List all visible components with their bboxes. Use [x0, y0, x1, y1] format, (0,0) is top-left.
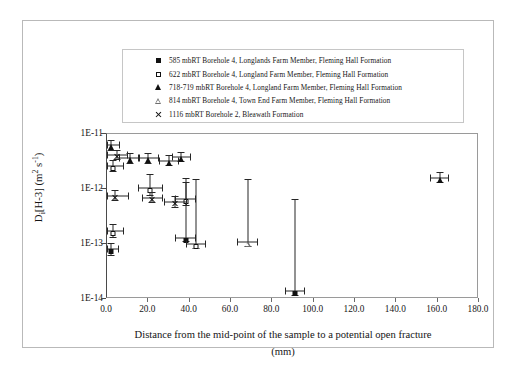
legend-marker-filled-triangle-icon: [147, 81, 169, 94]
error-bar-cap: [257, 238, 258, 245]
x-axis-tick-mark: [437, 298, 438, 302]
error-bar-cap: [128, 192, 129, 199]
error-bar-cap: [107, 163, 108, 170]
error-bar-cap: [107, 152, 108, 159]
open-triangle-marker-icon: [245, 241, 251, 247]
y-axis-tick-label: 1E-11: [65, 128, 103, 138]
error-bar-cap: [107, 192, 108, 199]
data-marker-open-square: [193, 235, 198, 253]
y-axis-tick-mark: [101, 188, 106, 189]
y-axis-tick-mark: [101, 133, 106, 134]
x-axis-tick-label: 160.0: [417, 304, 457, 314]
y-axis-title-main: D: [32, 214, 44, 222]
error-bar-cap: [118, 246, 119, 253]
data-marker-filled-triangle: [166, 152, 172, 170]
legend-item-label: 622 mbRT Borehole 4, Longland Farm Membe…: [169, 70, 388, 79]
cross-marker-icon: [172, 200, 179, 207]
error-bar-cap: [175, 234, 176, 241]
open-square-marker-icon: [111, 231, 116, 236]
legend-item-label: 814 mbRT Borehole 4, Town End Farm Membe…: [169, 96, 390, 105]
y-axis-tick-mark: [101, 298, 106, 299]
chart-legend: 585 mbRT Borehole 4, Longlands Farm Memb…: [122, 49, 464, 123]
error-bar-cap: [205, 241, 206, 248]
error-bar-cap: [142, 194, 143, 201]
x-axis-tick-mark: [271, 298, 272, 302]
x-axis-tick-label: 140.0: [375, 304, 415, 314]
error-bar-cap: [138, 155, 139, 162]
y-axis-title-species: [H-3] (m: [32, 173, 44, 212]
y-axis-tick-labels: 1E-111E-121E-131E-14: [61, 133, 103, 298]
x-axis-tick-label: 60.0: [210, 304, 250, 314]
error-bar-cap: [448, 174, 449, 181]
error-bar-cap: [162, 184, 163, 191]
error-bar-cap: [304, 287, 305, 294]
error-bar-cap: [138, 184, 139, 191]
x-axis-tick-mark: [478, 298, 479, 302]
error-bar-cap: [292, 199, 299, 200]
error-bar-cap: [186, 241, 187, 248]
legend-item-label: 1116 mbRT Borehole 2, Bleawath Formation: [169, 110, 303, 119]
data-marker-cross: [112, 187, 119, 205]
x-axis-tick-label: 100.0: [293, 304, 333, 314]
cross-marker-icon: [149, 196, 156, 203]
error-bar-cap: [182, 182, 189, 183]
data-marker-filled-square: [109, 240, 114, 258]
error-bar-cap: [192, 179, 199, 180]
filled-triangle-marker-icon: [166, 160, 172, 166]
error-bar-cap: [186, 199, 187, 206]
x-axis-tick-label: 120.0: [334, 304, 374, 314]
legend-filled-square-icon: [156, 58, 161, 63]
y-axis-title-subscript: i: [38, 212, 47, 214]
legend-item-label: 585 mbRT Borehole 4, Longlands Farm Memb…: [169, 56, 391, 65]
filled-square-marker-icon: [109, 249, 114, 254]
filled-triangle-marker-icon: [437, 177, 443, 183]
legend-open-square-icon: [156, 72, 161, 77]
plot-area: [106, 133, 478, 298]
error-bar-cap: [237, 238, 238, 245]
error-bar-cap: [172, 154, 173, 161]
legend-item-label: 718-719 mbRT Borehole 4, Longland Farm M…: [169, 83, 402, 92]
error-bar-cap: [244, 179, 251, 180]
error-bar-cap: [430, 174, 431, 181]
error-bar-cap: [285, 287, 286, 294]
error-bar-cap: [162, 194, 163, 201]
y-axis-title-close: ): [32, 153, 44, 157]
error-bar-cap: [127, 152, 128, 159]
y-axis-title-sup-inverse: -1: [31, 156, 40, 162]
filled-triangle-marker-icon: [145, 157, 151, 163]
legend-marker-open-triangle-icon: [147, 94, 169, 107]
data-marker-open-triangle: [245, 233, 251, 251]
y-axis-title: Di[H-3] (m2 s-1): [31, 112, 48, 262]
data-marker-filled-triangle: [145, 149, 151, 167]
data-marker-cross: [172, 193, 179, 211]
legend-filled-triangle-icon: [155, 84, 161, 90]
legend-cross-icon: [155, 111, 162, 118]
x-axis-tick-mark: [313, 298, 314, 302]
open-square-marker-icon: [111, 166, 116, 171]
filled-square-marker-icon: [293, 291, 298, 296]
data-marker-cross: [149, 189, 156, 207]
open-square-marker-icon: [193, 244, 198, 249]
cross-marker-icon: [112, 194, 119, 201]
x-axis-tick-label: 80.0: [251, 304, 291, 314]
legend-marker-filled-square-icon: [147, 54, 169, 67]
x-axis-tick-mark: [395, 298, 396, 302]
legend-marker-open-square-icon: [147, 68, 169, 81]
data-marker-cross: [114, 146, 121, 164]
x-axis-tick-label: 20.0: [127, 304, 167, 314]
y-axis-tick-label: 1E-12: [65, 183, 103, 193]
data-marker-filled-triangle: [178, 148, 184, 166]
error-bar-cap: [159, 158, 160, 165]
data-marker-filled-square: [293, 282, 298, 300]
x-axis-tick-label: 40.0: [169, 304, 209, 314]
data-points-layer: [107, 134, 477, 297]
error-bar-cap: [107, 228, 108, 235]
legend-item: 814 mbRT Borehole 4, Town End Farm Membe…: [123, 94, 463, 107]
legend-item: 718-719 mbRT Borehole 4, Longland Farm M…: [123, 81, 463, 94]
x-axis-tick-label: 0.0: [86, 304, 126, 314]
y-axis-title-unit: s: [32, 163, 44, 170]
error-bar-cap: [190, 154, 191, 161]
x-axis-title-line1: Distance from the mid-point of the sampl…: [83, 326, 483, 343]
y-axis-tick-mark: [101, 243, 106, 244]
error-bar-cap: [182, 178, 189, 179]
